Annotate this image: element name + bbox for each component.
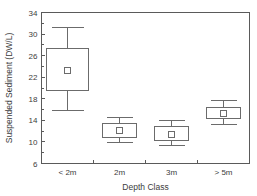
boxplot-group-0 [47,28,89,111]
y-tick-label-1: 30 [29,30,38,39]
boxplot-group-2 [155,121,189,146]
y-tick-label-4: 18 [29,95,38,104]
chart-canvas: 343026221814106< 2m2m3m> 5mDepth ClassSu… [0,0,257,196]
y-axis-title: Suspended Sediment (DW/L) [4,33,14,144]
mean-marker-3 [221,111,227,117]
y-tick-label-0: 34 [29,9,38,18]
y-tick-label-3: 22 [29,73,38,82]
plot-frame [42,13,250,164]
mean-marker-0 [65,67,71,73]
box-1 [103,124,137,138]
boxplot-group-1 [103,118,137,143]
y-tick-label-2: 26 [29,52,38,61]
boxplot-group-3 [207,101,241,125]
boxplot-figure: 343026221814106< 2m2m3m> 5mDepth ClassSu… [0,0,257,196]
x-tick-label-2: 3m [166,168,177,177]
box-2 [155,127,189,141]
x-axis-title: Depth Class [122,182,168,192]
y-tick-label-7: 6 [33,160,38,169]
x-tick-label-0: < 2m [58,168,76,177]
mean-marker-2 [169,132,175,138]
box-0 [47,49,89,91]
mean-marker-1 [117,128,123,134]
y-tick-label-6: 10 [29,138,38,147]
y-tick-label-5: 14 [29,116,38,125]
x-tick-label-1: 2m [114,168,125,177]
x-tick-label-3: > 5m [214,168,232,177]
